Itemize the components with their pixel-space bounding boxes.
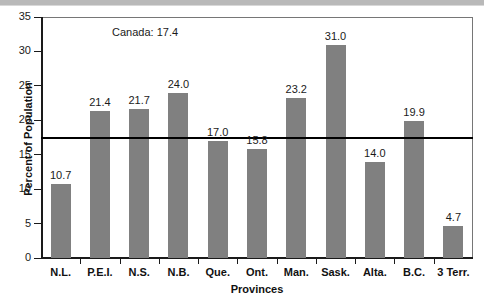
bar (286, 98, 306, 258)
x-axis-tick (277, 258, 278, 264)
x-axis-category-label: 3 Terr. (425, 266, 481, 278)
x-axis-tick (394, 258, 395, 264)
top-band-edge (0, 5, 484, 6)
x-axis-tick (120, 258, 121, 264)
y-axis-tick (34, 85, 41, 86)
bar-value-label: 10.7 (38, 169, 84, 181)
y-axis-title: Percent of Population (22, 59, 34, 219)
bar (247, 149, 267, 258)
canada-reference-label: Canada: 17.4 (112, 26, 178, 38)
y-axis-tick-label: 35 (3, 11, 31, 22)
x-axis-tick (355, 258, 356, 264)
bar (208, 141, 228, 258)
bar (365, 162, 385, 258)
x-axis-tick (80, 258, 81, 264)
chart-screenshot: 05101520253035 Percent of Population Can… (0, 0, 484, 299)
x-axis-tick (159, 258, 160, 264)
y-axis-tick-label: 0 (3, 252, 31, 263)
bar-value-label: 19.9 (391, 106, 437, 118)
bar (51, 184, 71, 258)
y-axis-tick-label: 30 (3, 45, 31, 56)
y-axis-tick (34, 223, 41, 224)
bar-value-label: 31.0 (313, 30, 359, 42)
bar-value-label: 15.8 (234, 134, 280, 146)
x-axis-tick (316, 258, 317, 264)
y-axis-tick (34, 258, 41, 259)
bar (404, 121, 424, 258)
x-axis-tick (198, 258, 199, 264)
y-axis-tick-label: 5 (3, 218, 31, 229)
bar-value-label: 21.7 (116, 94, 162, 106)
y-axis-tick (34, 154, 41, 155)
x-axis-tick (434, 258, 435, 264)
bar-value-label: 24.0 (155, 78, 201, 90)
bar-value-label: 14.0 (352, 147, 398, 159)
y-axis-tick (34, 120, 41, 121)
x-axis-tick (237, 258, 238, 264)
bar (326, 45, 346, 258)
bar-value-label: 23.2 (273, 83, 319, 95)
y-axis-tick (34, 189, 41, 190)
bar (90, 111, 110, 258)
x-axis-title: Provinces (41, 283, 473, 295)
bar (129, 109, 149, 258)
y-axis-tick (34, 17, 41, 18)
bar (443, 226, 463, 258)
bar (168, 93, 188, 258)
y-axis-tick (34, 51, 41, 52)
bar-value-label: 4.7 (430, 211, 476, 223)
